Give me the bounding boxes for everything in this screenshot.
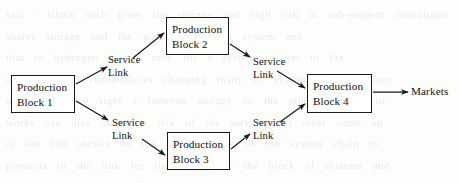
node-label-line1: Production [17,80,74,95]
edge-label-line2: Link [253,130,285,143]
node-production-block-4[interactable]: Production Block 4 [307,74,372,113]
node-label-line2: Block 3 [173,152,229,167]
edge-label-line2: Link [112,130,144,143]
edge-label-line1: Service [253,117,285,130]
node-label-line1: Production [172,22,228,37]
edge-label-service-link-1-2: Service Link [108,54,140,79]
node-label-line2: Block 1 [17,95,74,110]
node-label-line2: Block 2 [172,37,228,52]
node-production-block-1[interactable]: Production Block 1 [11,75,75,113]
arrow-servicelink-lower-to-block3 [142,139,165,155]
node-production-block-2[interactable]: Production Block 2 [166,17,229,55]
edge-label-line2: Link [253,69,285,82]
edge-label-line2: Link [108,67,140,80]
edge-label-line1: Service [253,56,285,69]
edge-label-line1: Service [112,117,144,130]
sink-label-markets: Markets [411,85,448,97]
arrow-block2-to-servicelink-upperright [230,44,250,57]
edge-label-line1: Service [108,54,140,67]
edge-label-service-link-1-3: Service Link [112,117,144,142]
diagram-canvas: salt - Block such gives the storage and … [0,0,459,183]
node-label-line1: Production [313,79,371,94]
arrow-block1-to-servicelink-upper [76,67,107,84]
arrow-block1-to-servicelink-lower [76,101,108,120]
arrow-block3-to-servicelink-lowerright [231,134,250,149]
node-production-block-3[interactable]: Production Block 3 [167,132,230,170]
edge-label-service-link-3-4: Service Link [253,117,285,142]
node-label-line2: Block 4 [313,94,371,109]
node-label-line1: Production [173,137,229,152]
edge-label-service-link-2-4: Service Link [253,56,285,81]
